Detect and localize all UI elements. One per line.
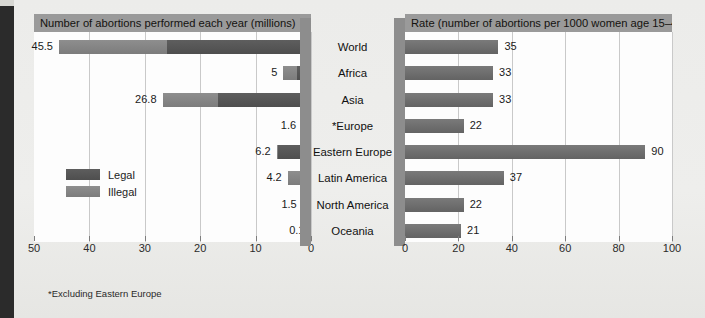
axis-tick-label: 40 xyxy=(506,242,518,254)
axis-tickmark xyxy=(512,236,513,241)
axis-tickmark xyxy=(619,236,620,241)
bar-row: 37 xyxy=(405,165,672,191)
legend-swatch-illegal xyxy=(66,186,100,197)
bar-row: 35 xyxy=(405,34,672,60)
bar-segment-rate xyxy=(405,198,464,212)
bar-row: 22 xyxy=(405,113,672,139)
stacked-bar[interactable] xyxy=(163,93,311,107)
bar-value-label: 33 xyxy=(499,64,511,80)
bar-segment-rate xyxy=(405,171,504,185)
bar-segment-legal xyxy=(218,93,311,107)
bar-segment-rate xyxy=(405,145,645,159)
left-chart-gutter xyxy=(300,18,311,246)
axis-tick-label: 20 xyxy=(452,242,464,254)
bar-row: 1.6 xyxy=(34,113,311,139)
axis-tickmark xyxy=(200,236,201,241)
bar-value-label: 6.2 xyxy=(255,143,270,159)
bar-row: 22 xyxy=(405,192,672,218)
right-chart-title: Rate (number of abortions per 1000 women… xyxy=(405,14,672,32)
bar-segment-illegal xyxy=(163,93,218,107)
axis-tick-label: 60 xyxy=(559,242,571,254)
legend-label-illegal: Illegal xyxy=(108,186,137,198)
legend-label-legal: Legal xyxy=(108,169,135,181)
bar-value-label: 22 xyxy=(470,196,482,212)
bar-segment-rate xyxy=(405,40,498,54)
bar-value-label: 90 xyxy=(651,143,663,159)
bar-segment-legal xyxy=(167,40,311,54)
axis-tick-label: 30 xyxy=(139,242,151,254)
bar-value-label: 26.8 xyxy=(135,91,156,107)
bar-row: 33 xyxy=(405,87,672,113)
gridline xyxy=(672,32,673,242)
bar-segment-illegal xyxy=(59,40,167,54)
category-label: World xyxy=(311,34,394,60)
bar-value-label: 1.5 xyxy=(281,196,296,212)
axis-tickmark xyxy=(89,236,90,241)
bar-row: 26.8 xyxy=(34,87,311,113)
bar-segment-rate xyxy=(405,224,461,238)
left-chart-title: Number of abortions performed each year … xyxy=(34,14,311,32)
axis-tick-label: 100 xyxy=(663,242,681,254)
axis-tickmark xyxy=(34,236,35,241)
bar-row: 0.1 xyxy=(34,218,311,244)
axis-tick-label: 10 xyxy=(249,242,261,254)
bar-segment-rate xyxy=(405,119,464,133)
bar-value-label: 5 xyxy=(271,64,277,80)
left-x-axis: 50403020100 xyxy=(34,242,311,258)
bar-value-label: 45.5 xyxy=(32,38,53,54)
stacked-bar[interactable] xyxy=(59,40,311,54)
bar-value-label: 37 xyxy=(510,169,522,185)
axis-tickmark xyxy=(405,236,406,241)
axis-tickmark xyxy=(145,236,146,241)
axis-tickmark xyxy=(565,236,566,241)
rate-bar[interactable] xyxy=(405,40,498,54)
bar-row: 45.5 xyxy=(34,34,311,60)
legend-item-illegal: Illegal xyxy=(66,183,137,200)
bar-row: 5 xyxy=(34,60,311,86)
left-chart-panel: Number of abortions performed each year … xyxy=(34,14,311,260)
category-label: North America xyxy=(311,192,394,218)
bar-row: 33 xyxy=(405,60,672,86)
right-chart-panel: Rate (number of abortions per 1000 women… xyxy=(405,14,672,260)
chart-footnote: *Excluding Eastern Europe xyxy=(48,288,162,299)
bar-row: 90 xyxy=(405,139,672,165)
axis-tick-label: 40 xyxy=(83,242,95,254)
bar-row: 6.2 xyxy=(34,139,311,165)
axis-tickmark xyxy=(672,236,673,241)
axis-tick-label: 80 xyxy=(612,242,624,254)
bar-segment-rate xyxy=(405,93,493,107)
category-label: Eastern Europe xyxy=(311,139,394,165)
rate-bar[interactable] xyxy=(405,198,464,212)
axis-tick-label: 50 xyxy=(28,242,40,254)
axis-tickmark xyxy=(458,236,459,241)
rate-bar[interactable] xyxy=(405,145,645,159)
rate-bar[interactable] xyxy=(405,93,493,107)
rate-bar[interactable] xyxy=(405,224,461,238)
category-label: Oceania xyxy=(311,218,394,244)
category-label: Africa xyxy=(311,60,394,86)
chart-legend: Legal Illegal xyxy=(66,166,137,200)
bar-value-label: 1.6 xyxy=(281,117,296,133)
right-chart-gutter xyxy=(394,18,405,246)
legend-swatch-legal xyxy=(66,169,100,180)
rate-bar[interactable] xyxy=(405,171,504,185)
bar-segment-illegal xyxy=(283,66,296,80)
rate-bar[interactable] xyxy=(405,119,464,133)
bar-value-label: 4.2 xyxy=(266,169,281,185)
category-label: Asia xyxy=(311,87,394,113)
category-label: *Europe xyxy=(311,113,394,139)
left-plot-area: 45.5526.81.66.24.21.50.1 xyxy=(34,32,311,242)
bar-row: 21 xyxy=(405,218,672,244)
bar-value-label: 21 xyxy=(467,222,479,238)
category-label-column: WorldAfricaAsia*EuropeEastern EuropeLati… xyxy=(311,32,394,246)
right-x-axis: 020406080100 xyxy=(405,242,672,258)
right-plot-area: 3533332290372221 xyxy=(405,32,672,242)
axis-tickmark xyxy=(256,236,257,241)
bar-value-label: 33 xyxy=(499,91,511,107)
category-label: Latin America xyxy=(311,165,394,191)
bar-value-label: 22 xyxy=(470,117,482,133)
axis-tick-label: 0 xyxy=(402,242,408,254)
axis-tick-label: 20 xyxy=(194,242,206,254)
legend-item-legal: Legal xyxy=(66,166,137,183)
rate-bar[interactable] xyxy=(405,66,493,80)
